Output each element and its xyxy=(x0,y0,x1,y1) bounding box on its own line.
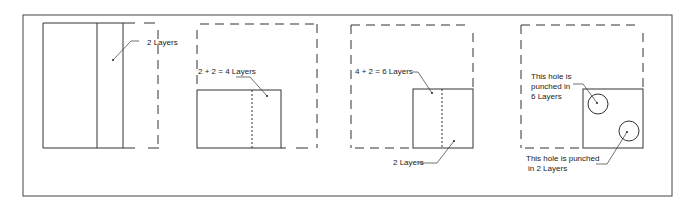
panel-3 xyxy=(351,25,473,163)
panel-2 xyxy=(197,24,317,148)
hole-2-layers-icon xyxy=(619,121,639,141)
hole2-label-line1: This hole is punched xyxy=(526,154,599,163)
panel-3-top-label: 4 + 2 = 6 Layers xyxy=(355,67,413,76)
hole2-label-line2: in 2 Layers xyxy=(528,164,567,173)
outer-frame xyxy=(23,15,672,196)
panel-2-label: 2 + 2 = 4 Layers xyxy=(198,67,256,76)
panel-1-label: 2 Layers xyxy=(147,38,178,47)
panel-1 xyxy=(43,23,159,148)
folding-diagram: 2 Layers 2 + 2 = 4 Layers 4 + 2 = 6 Laye… xyxy=(0,0,695,208)
hole-6-layers-icon xyxy=(588,94,608,114)
hole1-label-line2: punched in xyxy=(531,82,570,91)
hole1-label-line3: 6 Layers xyxy=(531,92,562,101)
panel-3-bottom-label: 2 Layers xyxy=(393,158,424,167)
hole1-label-line1: This hole is xyxy=(531,72,571,81)
